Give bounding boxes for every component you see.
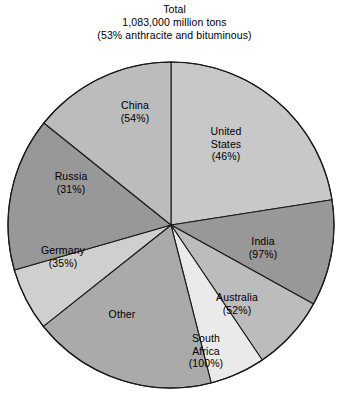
slice-label-south-africa: South Africa (100%) — [180, 332, 232, 370]
pie-chart-figure: Total 1,083,000 million tons (53% anthra… — [0, 0, 349, 399]
slice-label-germany-name: Germany — [26, 244, 100, 257]
slice-label-australia-percent: (52%) — [198, 304, 276, 317]
slice-label-russia-percent: (31%) — [38, 183, 104, 196]
slice-label-other: Other — [94, 308, 150, 321]
slice-label-germany: Germany (35%) — [26, 244, 100, 269]
slice-label-australia: Australia (52%) — [198, 291, 276, 316]
slice-label-india: India (97%) — [233, 235, 293, 260]
slice-label-india-percent: (97%) — [233, 248, 293, 261]
slice-label-united-states: United States (46%) — [193, 125, 259, 163]
slice-label-united-states-percent: (46%) — [193, 150, 259, 163]
slice-label-russia: Russia (31%) — [38, 170, 104, 195]
slice-label-south-africa-percent: (100%) — [180, 357, 232, 370]
slice-label-south-africa-name: South — [180, 332, 232, 345]
slice-label-other-name: Other — [94, 308, 150, 321]
slice-label-united-states-name2: States — [193, 138, 259, 151]
slice-label-russia-name: Russia — [38, 170, 104, 183]
slice-label-germany-percent: (35%) — [26, 257, 100, 270]
slice-label-china-percent: (54%) — [104, 112, 166, 125]
pie-slices — [8, 62, 334, 388]
pie-graphic: United States (46%) India (97%) Australi… — [0, 0, 349, 399]
pie-svg — [0, 0, 349, 399]
slice-label-south-africa-name2: Africa — [180, 345, 232, 358]
slice-label-china-name: China — [104, 99, 166, 112]
slice-label-india-name: India — [233, 235, 293, 248]
slice-label-china: China (54%) — [104, 99, 166, 124]
slice-label-united-states-name: United — [193, 125, 259, 138]
slice-label-australia-name: Australia — [198, 291, 276, 304]
